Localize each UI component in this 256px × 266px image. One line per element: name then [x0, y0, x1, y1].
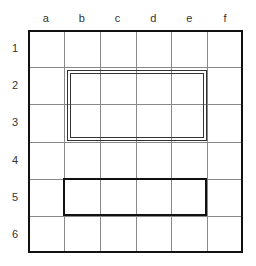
row-label-4: 4 — [8, 142, 22, 179]
row-label-2: 2 — [8, 67, 22, 104]
bold-outline-region — [63, 178, 207, 216]
column-label-d: d — [136, 12, 172, 24]
column-label-a: a — [28, 12, 64, 24]
column-label-b: b — [64, 12, 100, 24]
grid-area — [28, 30, 243, 253]
double-outline-inner — [70, 73, 204, 138]
grid-horizontal-line — [30, 142, 241, 143]
row-label-1: 1 — [8, 30, 22, 67]
row-label-6: 6 — [8, 216, 22, 253]
grid-horizontal-line — [30, 216, 241, 217]
row-label-3: 3 — [8, 104, 22, 141]
double-outline-region — [67, 70, 207, 141]
row-label-5: 5 — [8, 179, 22, 216]
column-label-f: f — [207, 12, 243, 24]
column-label-e: e — [171, 12, 207, 24]
grid-diagram: abcdef123456 — [0, 0, 256, 266]
grid-horizontal-line — [30, 67, 241, 68]
column-label-c: c — [100, 12, 136, 24]
